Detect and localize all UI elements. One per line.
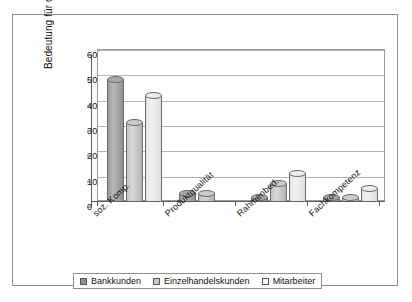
y-axis-tick-mark [87,131,92,132]
y-axis-tick-mark [87,55,92,56]
y-axis-tick-mark [87,156,92,157]
legend-swatch-icon [153,278,160,285]
legend-swatch-icon [80,278,87,285]
x-axis-tick-mark [163,201,164,206]
bar-cap [361,185,378,192]
y-axis-tick-mark [87,80,92,81]
x-axis-tick-mark [97,201,98,206]
y-axis-tick-mark [87,105,92,106]
bar-cap [198,190,215,197]
y-axis-title-container: Bedeutung für die Zufriedenheit in % [45,51,61,211]
x-axis-tick-mark [379,201,380,206]
y-axis-tick-mark [87,181,92,182]
bar-cap [107,76,124,83]
bar[interactable] [361,188,378,201]
y-axis-title: Bedeutung für die Zufriedenheit in % [43,0,54,69]
legend-label: Mitarbeiter [273,276,316,286]
x-axis-line [91,201,385,202]
legend-item[interactable]: Mitarbeiter [262,276,316,286]
chart-legend: Bankkunden Einzelhandelskunden Mitarbeit… [73,273,322,289]
bar[interactable] [289,173,306,201]
legend-item[interactable]: Einzelhandelskunden [153,276,250,286]
bar[interactable] [145,95,162,201]
bar-cap [145,92,162,99]
x-axis-tick-mark [307,201,308,206]
bar-cap [126,119,143,126]
chart-outer-frame: Bedeutung für die Zufriedenheit in % Ban… [12,14,398,286]
legend-label: Bankkunden [91,276,141,286]
bar-cap [289,170,306,177]
legend-swatch-icon [262,278,269,285]
legend-label: Einzelhandelskunden [164,276,250,286]
legend-item[interactable]: Bankkunden [80,276,141,286]
bar-cap [342,194,359,201]
bar[interactable] [198,193,215,201]
y-axis-tick-mark [87,207,92,208]
x-axis-tick-mark [235,201,236,206]
